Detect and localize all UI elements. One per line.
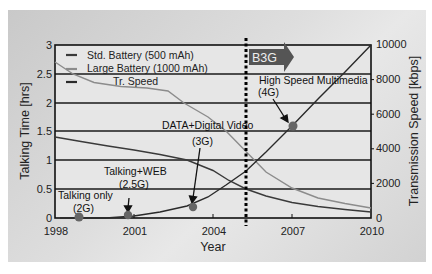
marker-3g [189,203,197,211]
marker-4g-label: High Speed Multimedia [259,74,368,86]
y-axis-tick-labels: 0 0.5 1 1.5 2 2.5 3 [37,39,52,224]
svg-text:0: 0 [376,212,382,224]
marker-3g-label: DATA+Digital Video [162,119,253,131]
y2-axis-title: Transmission Speed [kbps] [407,56,421,206]
svg-text:2.5: 2.5 [37,68,52,80]
marker-3g-sublabel: (3G) [192,135,213,147]
x-axis-title: Year [200,240,225,254]
svg-text:4000: 4000 [376,142,400,154]
svg-text:1.5: 1.5 [37,125,52,137]
svg-text:1: 1 [46,154,52,166]
svg-text:2: 2 [46,97,52,109]
svg-text:1998: 1998 [44,225,68,237]
svg-text:3: 3 [46,39,52,51]
marker-4g [289,122,298,131]
svg-text:2000: 2000 [376,177,400,189]
marker-4g-sublabel: (4G) [258,86,279,98]
b3g-label: B3G [252,51,277,65]
marker-2-5g [124,211,132,219]
svg-text:2010: 2010 [360,225,384,237]
svg-text:8000: 8000 [376,73,400,85]
svg-text:2001: 2001 [123,225,147,237]
legend-speed-label: Tr. Speed [113,75,158,87]
svg-text:10000: 10000 [376,38,407,50]
y-axis-title: Talking Time [hrs] [18,82,32,179]
svg-text:6000: 6000 [376,108,400,120]
legend-std-label: Std. Battery (500 mAh) [87,49,194,61]
svg-text:0.5: 0.5 [37,183,52,195]
marker-2g-label: Talking only [58,189,114,201]
chart-svg: B3G Std. Battery (500 mAh) Large Battery… [0,0,432,274]
svg-text:2004: 2004 [202,225,226,237]
svg-text:0: 0 [46,212,52,224]
marker-2g-sublabel: (2G) [73,202,94,214]
marker-2-5g-sublabel: (2.5G) [119,178,149,190]
svg-text:2007: 2007 [281,225,305,237]
y2-axis-tick-labels: 0 2000 4000 6000 8000 10000 [376,38,407,224]
legend-large-label: Large Battery (1000 mAh) [87,62,208,74]
x-axis-tick-labels: 1998 2001 2004 2007 2010 [44,225,384,237]
marker-2-5g-label: Talking+WEB [104,165,167,177]
